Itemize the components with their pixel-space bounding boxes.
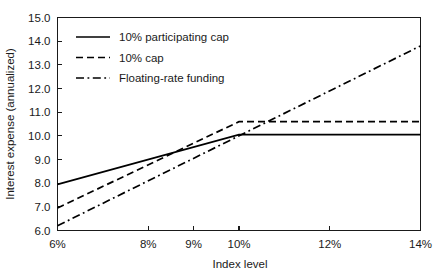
x-tick-label: 9%	[185, 238, 202, 250]
y-tick-label: 15.0	[28, 12, 50, 24]
y-tick-label: 10.0	[28, 130, 50, 142]
chart-figure: 6.07.08.09.010.011.012.013.014.015.0 6%8…	[0, 0, 444, 273]
y-tick-label: 8.0	[35, 177, 51, 189]
y-tick-label: 9.0	[35, 154, 51, 166]
x-tick-label: 14%	[409, 238, 432, 250]
x-tick-label: 10%	[227, 238, 250, 250]
y-axis-ticks: 6.07.08.09.010.011.012.013.014.015.0	[28, 12, 62, 237]
y-tick-label: 12.0	[28, 83, 50, 95]
series-line-floating-rate-funding	[58, 46, 421, 226]
y-tick-label: 14.0	[28, 35, 50, 47]
x-tick-label: 6%	[49, 238, 66, 250]
y-tick-label: 13.0	[28, 59, 50, 71]
y-axis-title: Interest expense (annualized)	[4, 48, 16, 200]
y-tick-label: 11.0	[29, 106, 51, 118]
line-chart: 6.07.08.09.010.011.012.013.014.015.0 6%8…	[0, 0, 444, 273]
series-line-10-participating-cap	[58, 135, 421, 185]
chart-legend: 10% participating cap10% capFloating-rat…	[76, 31, 229, 84]
legend-label-3: Floating-rate funding	[119, 72, 224, 84]
x-axis-title: Index level	[213, 258, 268, 270]
data-series-group	[58, 46, 421, 226]
y-tick-label: 6.0	[35, 225, 51, 237]
x-tick-label: 12%	[318, 238, 341, 250]
legend-label-1: 10% participating cap	[119, 31, 229, 43]
plot-frame	[58, 18, 421, 231]
x-axis-ticks: 6%8%9%10%12%14%	[49, 226, 432, 250]
y-tick-label: 7.0	[35, 201, 51, 213]
legend-label-2: 10% cap	[119, 52, 164, 64]
x-tick-label: 8%	[140, 238, 157, 250]
